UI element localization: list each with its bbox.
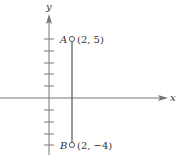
- point-a-coords: (2, 5): [77, 34, 104, 45]
- point-b-coords: (2, −4): [77, 140, 112, 151]
- y-axis-label: y: [45, 1, 52, 12]
- coordinate-plane: x y A (2, 5) B (2, −4): [0, 0, 177, 167]
- point-a-marker: [69, 36, 74, 41]
- point-b-name: B: [59, 140, 67, 151]
- x-axis-label: x: [170, 92, 176, 103]
- point-b-marker: [69, 142, 74, 147]
- point-a-name: A: [59, 34, 67, 45]
